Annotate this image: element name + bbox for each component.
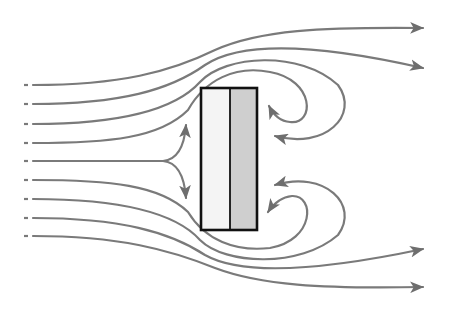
streamline-upper-eddy-large — [33, 60, 345, 139]
flow-diagram-canvas — [0, 0, 457, 329]
inflow-stubs — [24, 85, 28, 236]
streamline-upper-eddy-small — [33, 70, 307, 143]
plate — [201, 88, 257, 230]
streamline-center-down — [163, 161, 186, 198]
plate-front-layer — [201, 88, 230, 230]
flow-diagram — [0, 0, 457, 329]
streamline-center-up — [163, 125, 186, 161]
plate-back-layer — [230, 88, 257, 230]
